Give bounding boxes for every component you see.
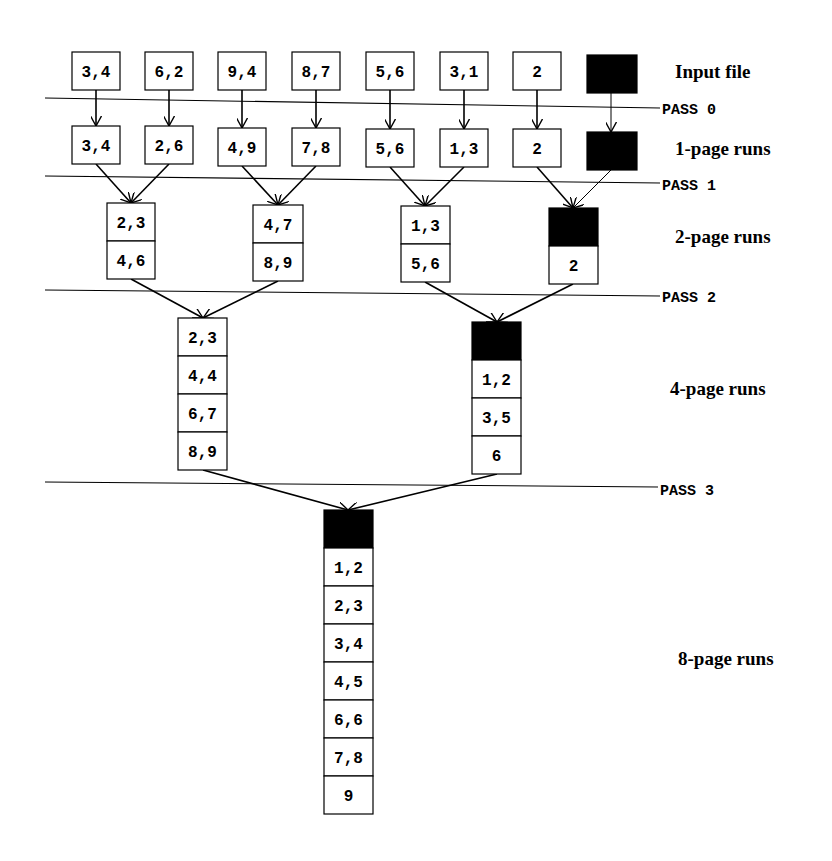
arrow-icon	[425, 167, 464, 206]
run: 2,34,6	[107, 203, 155, 279]
page-value: 8,9	[188, 444, 217, 462]
page-value: 7,8	[334, 750, 363, 768]
run: 2	[549, 208, 598, 284]
level-4: 1,22,33,44,56,67,89	[324, 510, 373, 814]
page-value: 5,6	[376, 64, 405, 82]
page-value: 2,3	[334, 598, 363, 616]
run: 7,8	[292, 128, 340, 166]
page-value: 7,8	[302, 140, 331, 158]
pass-label: PASS 0	[662, 102, 716, 119]
pass-label: PASS 2	[662, 290, 716, 307]
arrow-icon	[131, 279, 203, 318]
run: 4,9	[218, 128, 266, 166]
run: 3,1	[440, 52, 488, 90]
pass-label: PASS 3	[660, 483, 714, 500]
pass-separator-line	[45, 176, 660, 183]
run: 1,23,56	[472, 322, 521, 474]
run: 2	[513, 52, 561, 90]
pass-label: PASS 1	[662, 178, 716, 195]
runs-layer: 3,46,29,48,75,63,123,42,64,97,85,61,322,…	[72, 52, 637, 814]
page-value: 2,3	[188, 330, 217, 348]
arrow-icon	[278, 166, 316, 205]
run: 1,35,6	[401, 206, 450, 282]
level-2: 2,34,64,78,91,35,62	[107, 203, 598, 284]
page-value: 1,3	[411, 218, 440, 236]
page-value: 4,5	[334, 674, 363, 692]
run: 2,34,46,78,9	[178, 318, 227, 470]
page-value: 6,7	[188, 406, 217, 424]
arrow-icon	[131, 164, 169, 203]
page-value: 3,4	[334, 636, 363, 654]
page-value: 3,4	[82, 64, 111, 82]
empty-page-block	[587, 55, 637, 93]
level-label: 4-page runs	[670, 378, 766, 399]
pass-separator-line	[45, 482, 658, 487]
page-value: 4,4	[188, 368, 217, 386]
arrow-icon	[537, 167, 573, 208]
level-label: 1-page runs	[675, 138, 771, 159]
page-value: 2,6	[155, 138, 184, 156]
run	[587, 132, 637, 170]
pass-separator-line	[45, 290, 660, 296]
page-value: 2	[532, 141, 542, 159]
arrow-icon	[203, 281, 278, 318]
page-value: 8,7	[302, 64, 331, 82]
page-value: 2,3	[117, 215, 146, 233]
run: 1,22,33,44,56,67,89	[324, 510, 373, 814]
level-1: 3,42,64,97,85,61,32	[72, 126, 637, 170]
run: 3,4	[72, 52, 120, 90]
run: 6,2	[145, 52, 193, 90]
page-value: 6,6	[334, 712, 363, 730]
run: 4,78,9	[253, 205, 303, 281]
page-value: 5,6	[376, 141, 405, 159]
run: 9,4	[218, 52, 266, 90]
arrow-icon	[573, 170, 611, 208]
level-label: Input file	[675, 61, 751, 82]
page-value: 1,2	[334, 560, 363, 578]
page-value: 1,3	[450, 141, 479, 159]
page-value: 4,7	[264, 217, 293, 235]
page-value: 6,2	[155, 64, 184, 82]
run: 1,3	[440, 129, 488, 167]
page-value: 3,4	[82, 138, 111, 156]
run: 2	[513, 129, 561, 167]
page-value: 3,5	[482, 410, 511, 428]
page-value: 4,9	[228, 140, 257, 158]
empty-page-block	[324, 510, 373, 548]
arrow-icon	[348, 474, 497, 510]
page-value: 1,2	[482, 372, 511, 390]
level-label: 8-page runs	[678, 648, 774, 669]
page-value: 5,6	[411, 256, 440, 274]
page-value: 8,9	[264, 255, 293, 273]
run: 2,6	[145, 126, 193, 164]
arrow-icon	[242, 166, 278, 205]
pass-separator-line	[45, 98, 660, 108]
empty-page-block	[587, 132, 637, 170]
level-label: 2-page runs	[675, 226, 771, 247]
level-3: 2,34,46,78,91,23,56	[178, 318, 521, 474]
run: 5,6	[366, 52, 414, 90]
level-labels: Input file1-page runs2-page runs4-page r…	[670, 61, 774, 669]
empty-page-block	[549, 208, 598, 246]
arrow-icon	[203, 470, 348, 510]
page-value: 4,6	[117, 253, 146, 271]
page-value: 2	[532, 64, 542, 82]
empty-page-block	[472, 322, 521, 360]
page-value: 3,1	[450, 64, 479, 82]
run: 3,4	[72, 126, 120, 164]
arrow-icon	[390, 167, 425, 206]
run	[587, 55, 637, 93]
page-value: 6	[492, 448, 502, 466]
level-0: 3,46,29,48,75,63,12	[72, 52, 637, 93]
page-value: 9,4	[228, 64, 257, 82]
run: 5,6	[366, 129, 414, 167]
arrow-icon	[425, 282, 497, 322]
arrow-icon	[497, 284, 573, 322]
merge-sort-diagram: PASS 0PASS 1PASS 2PASS 3 3,46,29,48,75,6…	[0, 0, 832, 861]
arrow-icon	[96, 164, 131, 203]
run: 8,7	[292, 52, 340, 90]
page-value: 2	[569, 258, 579, 276]
page-value: 9	[344, 788, 354, 806]
